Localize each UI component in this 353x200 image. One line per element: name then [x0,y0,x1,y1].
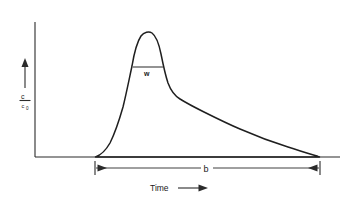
peak-curve [96,32,320,157]
y-axis-label-numerator: c [21,93,25,100]
x-axis-label-group: Time [150,183,208,193]
band-width-right-arrow-icon [308,165,318,172]
peak-width-label: w [143,70,150,77]
chromatogram-svg: c c 0 w b Time [0,0,353,200]
band-width-dimension: b [95,161,320,175]
y-axis-label-denominator: c [22,103,25,109]
band-width-left-arrow-icon [98,165,108,172]
y-axis-label-subscript: 0 [26,106,29,111]
y-axis-arrow-icon [22,58,29,88]
y-axis-label: c c 0 [20,93,31,111]
band-width-label: b [204,164,209,174]
x-axis-arrow-icon [199,185,209,192]
x-axis-label: Time [150,183,169,193]
chromatogram-figure: c c 0 w b Time [0,0,353,200]
